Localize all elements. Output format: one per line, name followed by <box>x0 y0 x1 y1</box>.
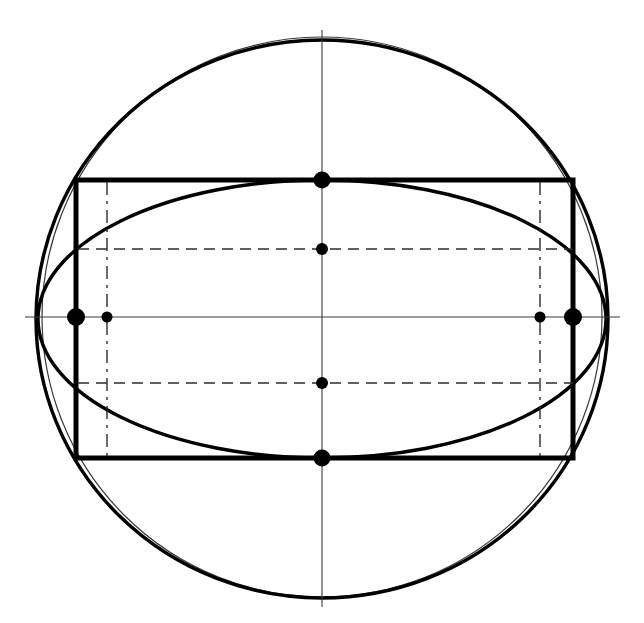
right-inner-focus-point <box>535 312 546 323</box>
top-midpoint <box>314 172 331 189</box>
figure-canvas <box>0 0 644 623</box>
bottom-midpoint <box>314 450 331 467</box>
upper-chord-center-point <box>316 243 328 255</box>
lower-chord-center-point <box>316 377 328 389</box>
right-vertex-point <box>564 308 582 326</box>
left-vertex-point <box>67 308 85 326</box>
left-inner-focus-point <box>102 312 113 323</box>
geometry-diagram-svg <box>0 0 644 623</box>
